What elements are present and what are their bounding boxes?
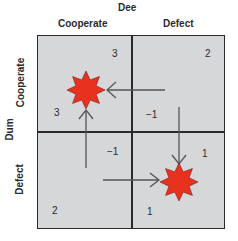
column-player-label: Dee — [118, 2, 136, 13]
equilibrium-star-icon — [67, 71, 105, 109]
arrow-up-icon — [79, 110, 93, 168]
arrow-left-icon — [107, 82, 165, 98]
arrow-down-icon — [172, 107, 186, 164]
equilibrium-star-icon — [160, 163, 198, 201]
arrow-right-icon — [103, 173, 159, 187]
dynamics-overlay — [37, 35, 225, 229]
row-strategy-defect: Defect — [14, 164, 25, 195]
row-strategy-cooperate: Cooperate — [15, 58, 26, 107]
column-strategy-cooperate: Cooperate — [58, 18, 107, 29]
row-player-label: Dum — [4, 118, 15, 140]
column-strategy-defect: Defect — [163, 18, 194, 29]
